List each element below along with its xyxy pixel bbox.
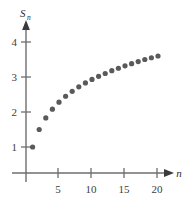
data-point: [103, 71, 108, 76]
x-tick-label-20: 20: [152, 183, 164, 195]
data-point: [142, 57, 147, 62]
data-point: [109, 68, 114, 73]
plot-canvas: 1 2 3 4 5 10 15 20 S n n: [0, 0, 188, 205]
x-tick-label-5: 5: [55, 183, 61, 195]
x-tick-label-15: 15: [119, 183, 131, 195]
data-point: [116, 66, 121, 71]
harmonic-series-scatter-figure: 1 2 3 4 5 10 15 20 S n n: [0, 0, 188, 205]
x-axis-arrow-icon: [164, 169, 174, 177]
data-point: [70, 89, 75, 94]
y-tick-label-3: 3: [12, 71, 18, 83]
data-point-group: [30, 53, 161, 149]
data-point: [56, 100, 61, 105]
y-axis-label: S: [20, 7, 26, 19]
x-tick-label-10: 10: [86, 183, 98, 195]
data-point: [155, 53, 160, 58]
x-axis-label: n: [176, 167, 182, 179]
data-point: [129, 61, 134, 66]
data-point: [76, 84, 81, 89]
data-point: [63, 94, 68, 99]
data-point: [30, 144, 35, 149]
data-point: [83, 80, 88, 85]
y-tick-label-1: 1: [12, 141, 18, 153]
data-point: [96, 74, 101, 79]
data-point: [43, 115, 48, 120]
y-tick-label-2: 2: [12, 106, 18, 118]
data-point: [136, 59, 141, 64]
data-point: [149, 55, 154, 60]
data-point: [122, 63, 127, 68]
data-point: [50, 107, 55, 112]
data-point: [89, 77, 94, 82]
y-tick-label-4: 4: [12, 36, 18, 48]
data-point: [37, 127, 42, 132]
y-axis-label-subscript: n: [27, 13, 31, 22]
